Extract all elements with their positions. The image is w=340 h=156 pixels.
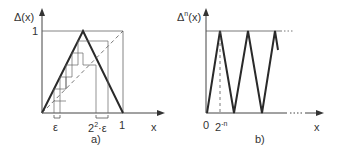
panel-a-y-tick-1: 1 — [32, 26, 38, 37]
panel-b-period-label: 2-n — [215, 120, 227, 133]
panel-a-epsilon-label: ε — [53, 122, 58, 133]
panel-a-x-label: x — [151, 122, 157, 133]
panel-b-y-label: Δn(x) — [177, 10, 201, 23]
period-exp: -n — [221, 120, 227, 127]
panel-b-origin-label: 0 — [203, 120, 209, 131]
panel-b-x-label: x — [314, 122, 320, 133]
panel-b-caption: b) — [255, 134, 265, 145]
panel-a-x-tick-1: 1 — [119, 120, 125, 131]
panel-a-graph — [39, 8, 165, 118]
panel-a-scaled-epsilon-label: 22·ε — [88, 121, 107, 134]
panel-b-y-suffix: (x) — [188, 11, 201, 23]
scaled-epsilon-suffix: ·ε — [98, 122, 107, 134]
panel-b-graph — [203, 8, 324, 116]
panel-a-x-arrow-icon — [157, 110, 165, 116]
panel-a-y-label: Δ(x) — [14, 12, 34, 23]
panel-b-y-arrow-icon — [203, 8, 209, 16]
panel-b-x-arrow-icon — [316, 110, 324, 116]
panel-a-caption: a) — [91, 134, 101, 145]
panel-a-scaled-brace — [96, 115, 108, 118]
panel-a-epsilon-brace — [54, 115, 60, 118]
panel-b-sawtooth — [207, 31, 278, 113]
diagram-canvas — [0, 0, 340, 156]
panel-a-y-arrow-icon — [39, 8, 45, 16]
